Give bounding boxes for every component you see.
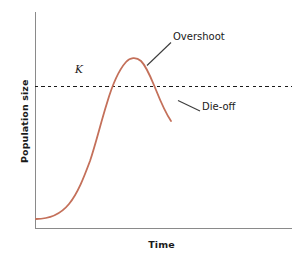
overshoot-annotation-label: Overshoot	[173, 31, 225, 42]
dieoff-leader-line	[178, 101, 200, 112]
x-axis-title: Time	[0, 239, 295, 250]
carrying-capacity-label: K	[75, 63, 83, 75]
overshoot-leader-line	[147, 43, 171, 66]
dieoff-annotation-label: Die-off	[202, 101, 235, 112]
plot-area	[0, 0, 295, 260]
population-overshoot-figure: Population size Time K Overshoot Die-off	[0, 0, 295, 260]
y-axis-title: Population size	[19, 80, 30, 164]
population-curve	[36, 58, 171, 219]
